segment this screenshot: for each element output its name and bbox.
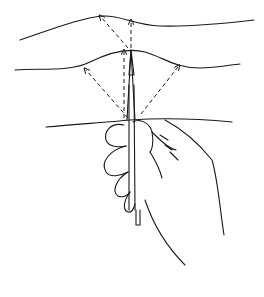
pencil <box>127 50 140 225</box>
top-contour-line <box>20 16 254 40</box>
hand <box>104 120 224 265</box>
middle-contour-line <box>15 50 240 70</box>
sketch-drawing <box>0 0 264 297</box>
bottom-contour-line <box>46 119 232 127</box>
illustration: hand holding pencil vertically with dash… <box>0 0 264 297</box>
